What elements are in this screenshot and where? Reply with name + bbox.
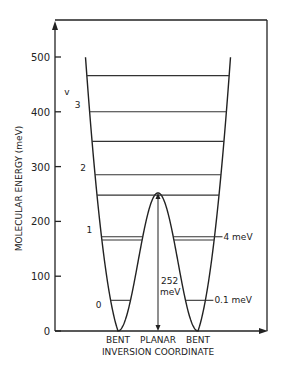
- y-axis-label: MOLECULAR ENERGY (meV): [14, 126, 24, 252]
- level-v-label: 3: [75, 100, 81, 110]
- potential-energy-diagram: 0100200300400500MOLECULAR ENERGY (meV) 0…: [0, 0, 292, 368]
- x-position-label: BENT: [186, 335, 211, 345]
- tunneling-split-label: 4 meV: [224, 232, 254, 242]
- v-quantum-label: v: [64, 87, 70, 97]
- y-tick-label: 400: [31, 107, 50, 118]
- y-axis-arrow: [52, 21, 58, 30]
- x-axis-label: INVERSION COORDINATE: [102, 347, 215, 357]
- level-v-label: 1: [87, 225, 93, 235]
- y-tick-label: 100: [31, 271, 50, 282]
- x-position-label: BENT: [106, 335, 131, 345]
- level-v-label: 0: [96, 300, 102, 310]
- y-tick-label: 200: [31, 216, 50, 227]
- y-tick-label: 500: [31, 52, 50, 63]
- barrier-unit: meV: [160, 287, 181, 297]
- level-v-label: 2: [80, 163, 86, 173]
- x-position-label: PLANAR: [140, 335, 176, 345]
- barrier-value: 252: [161, 276, 178, 286]
- y-tick-label: 300: [31, 162, 50, 173]
- tunneling-split-label: 0.1 meV: [214, 295, 252, 305]
- barrier-arrow-head-bottom: [156, 325, 161, 331]
- y-tick-label: 0: [44, 326, 50, 337]
